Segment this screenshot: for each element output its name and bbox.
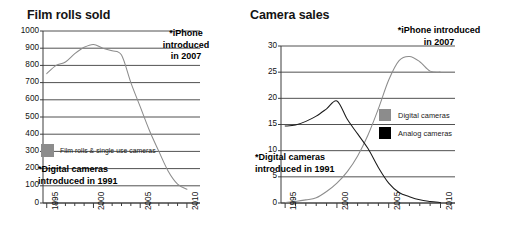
y-axis-tick-label: 400 <box>3 129 39 138</box>
x-axis-tick-label: 2005 <box>144 192 153 210</box>
y-axis-tick-label: 900 <box>3 43 39 52</box>
x-axis-tick-label: 2000 <box>97 192 106 210</box>
annotation-iphone-left-line3: in 2007 <box>138 51 234 63</box>
y-axis-tick-label: 25 <box>241 67 277 76</box>
legend-label-digital-cameras: Digital cameras <box>398 111 450 120</box>
y-axis-tick-label: 15 <box>241 119 277 128</box>
y-axis-tick-label: 0 <box>3 198 39 207</box>
legend-camera-sales: Digital cameras Analog cameras <box>379 106 452 142</box>
y-axis-tick-label: 1000 <box>3 26 39 35</box>
legend-swatch-digital-cameras <box>379 109 391 121</box>
y-axis-tick-label: 10 <box>241 145 277 154</box>
y-axis-tick-label: 100 <box>3 180 39 189</box>
y-axis-tick-label: 500 <box>3 112 39 121</box>
annotation-digital-left: *Digital cameras introduced in 1991 <box>38 164 118 187</box>
x-axis-tick-label: 2010 <box>191 192 200 210</box>
annotation-digital-left-line2: introduced in 1991 <box>38 176 118 188</box>
annotation-iphone-left-line2: introduced <box>138 40 234 52</box>
y-axis-tick-label: 700 <box>3 77 39 86</box>
y-axis-tick-label: 200 <box>3 163 39 172</box>
y-axis-tick-label: 5 <box>241 171 277 180</box>
x-axis-tick-label: 2000 <box>341 192 350 210</box>
annotation-iphone-left: *iPhone introduced in 2007 <box>138 28 234 63</box>
x-axis-tick-label: 2010 <box>445 192 454 210</box>
plot-area-camera-sales <box>248 26 508 244</box>
y-axis-tick-label: 30 <box>241 41 277 50</box>
x-axis-tick-label: 1995 <box>289 192 298 210</box>
chart-title-camera-sales: Camera sales <box>250 8 329 22</box>
y-axis-tick-label: 20 <box>241 93 277 102</box>
y-axis-tick-label: 800 <box>3 60 39 69</box>
legend-swatch-film-rolls <box>41 144 54 157</box>
annotation-digital-left-line1: *Digital cameras <box>38 164 118 176</box>
annotation-iphone-left-line1: *iPhone <box>138 28 234 40</box>
legend-label-film-rolls: Film rolls & single use cameras <box>60 147 156 154</box>
camera-sales-line-chart <box>248 26 508 244</box>
annotation-iphone-right-line2: in 2007 <box>372 37 506 49</box>
chart-title-film-rolls: Film rolls sold <box>27 8 110 22</box>
legend-item-film-rolls: Film rolls & single use cameras <box>41 143 156 158</box>
y-axis-tick-label: 0 <box>241 198 277 207</box>
y-axis-tick-label: 300 <box>3 146 39 155</box>
legend-label-analog-cameras: Analog cameras <box>398 129 452 138</box>
chart-panel-film-rolls: Film rolls sold *iPhone introduced in 20… <box>0 0 248 244</box>
legend-swatch-analog-cameras <box>379 127 391 139</box>
annotation-iphone-right-line1: *iPhone introduced <box>372 25 506 37</box>
annotation-iphone-right: *iPhone introduced in 2007 <box>372 25 506 48</box>
legend-film-rolls: Film rolls & single use cameras <box>41 143 156 158</box>
chart-panel-camera-sales: Camera sales *iPhone introduced in 2007 … <box>248 0 508 244</box>
x-axis-tick-label: 1995 <box>51 192 60 210</box>
x-axis-tick-label: 2005 <box>393 192 402 210</box>
legend-item-analog-cameras: Analog cameras <box>379 124 452 142</box>
y-axis-tick-label: 600 <box>3 94 39 103</box>
legend-item-digital-cameras: Digital cameras <box>379 106 452 124</box>
